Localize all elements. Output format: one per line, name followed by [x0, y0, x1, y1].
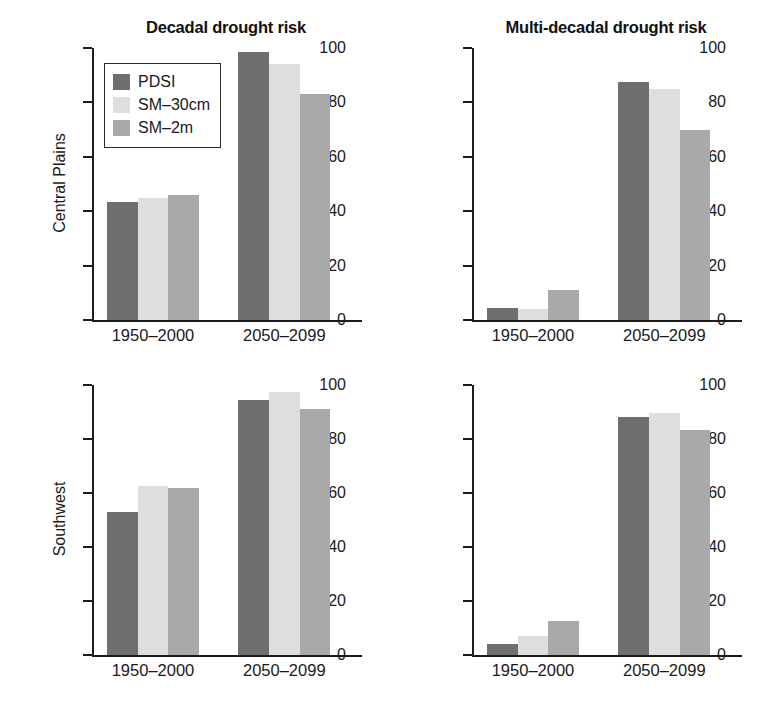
bar-southwest-decadal-0-0 — [107, 385, 138, 655]
panel-central-plains-decadal: Decadal drought riskCentral Plains020406… — [0, 18, 360, 360]
bar-fill-PDSI — [618, 82, 649, 320]
bar-central-plains-multidecadal-0-1 — [518, 48, 549, 320]
x-category-label-central-plains-decadal-1: 2050–2099 — [220, 326, 348, 345]
y-tick-0 — [83, 654, 92, 656]
x-axis-line — [472, 320, 742, 322]
bar-group-southwest-decadal-0 — [107, 385, 199, 655]
panel-title-central-plains-decadal: Decadal drought risk — [92, 18, 360, 37]
panel-central-plains-multidecadal: Multi-decadal drought risk02040608010019… — [380, 18, 740, 360]
y-axis-line — [92, 385, 94, 655]
legend-item-1[interactable]: SM–30cm — [113, 94, 210, 117]
legend-swatch-sm2m-icon — [113, 120, 130, 136]
x-category-label-central-plains-multidecadal-1: 2050–2099 — [600, 326, 728, 345]
bar-fill-PDSI — [238, 400, 269, 655]
y-tick-40 — [463, 210, 472, 212]
bar-group-central-plains-multidecadal-0 — [487, 48, 579, 320]
y-tick-label-60: 60 — [708, 148, 726, 166]
bar-fill-SM30cm — [269, 64, 300, 320]
y-axis-line — [472, 385, 474, 655]
panel-title-central-plains-multidecadal: Multi-decadal drought risk — [472, 18, 740, 37]
plot-area-southwest-multidecadal: 0204060801001950–20002050–2099 — [472, 385, 740, 655]
y-tick-100 — [83, 47, 92, 49]
bar-southwest-multidecadal-1-0 — [618, 385, 649, 655]
y-tick-40 — [83, 210, 92, 212]
y-tick-20 — [463, 600, 472, 602]
y-tick-100 — [463, 47, 472, 49]
bar-fill-SM30cm — [518, 636, 549, 655]
y-tick-60 — [83, 492, 92, 494]
bar-central-plains-multidecadal-1-1 — [649, 48, 680, 320]
bar-group-central-plains-multidecadal-1 — [618, 48, 710, 320]
bar-fill-SM2m — [300, 94, 331, 320]
bar-group-southwest-decadal-1 — [238, 385, 330, 655]
legend-item-label: SM–30cm — [138, 97, 210, 113]
bar-southwest-decadal-0-2 — [168, 385, 199, 655]
bar-fill-PDSI — [107, 512, 138, 655]
y-tick-60 — [83, 156, 92, 158]
bar-fill-PDSI — [487, 644, 518, 655]
y-tick-20 — [83, 600, 92, 602]
y-tick-label-40: 40 — [708, 202, 726, 220]
bar-fill-SM30cm — [649, 89, 680, 320]
x-axis-line — [92, 655, 362, 657]
bar-fill-PDSI — [618, 417, 649, 655]
y-tick-60 — [463, 156, 472, 158]
y-tick-80 — [463, 101, 472, 103]
bar-southwest-multidecadal-0-1 — [518, 385, 549, 655]
bar-southwest-decadal-1-2 — [300, 385, 331, 655]
y-tick-80 — [83, 101, 92, 103]
legend-item-2[interactable]: SM–2m — [113, 117, 210, 140]
bar-fill-PDSI — [487, 308, 518, 320]
panel-southwest-decadal: Southwest0204060801001950–20002050–2099 — [0, 355, 360, 695]
legend-item-label: SM–2m — [138, 120, 193, 136]
bar-fill-SM2m — [548, 621, 579, 655]
y-tick-label-20: 20 — [708, 257, 726, 275]
chart-legend: PDSISM–30cmSM–2m — [104, 63, 221, 148]
row-label-southwest-decadal: Southwest — [51, 439, 69, 599]
bar-fill-SM2m — [680, 430, 711, 655]
legend-swatch-pdsi-icon — [113, 74, 130, 90]
bar-central-plains-multidecadal-0-2 — [548, 48, 579, 320]
y-tick-40 — [83, 546, 92, 548]
y-axis-line — [92, 48, 94, 320]
bar-fill-SM2m — [680, 130, 711, 320]
bar-fill-PDSI — [107, 202, 138, 320]
y-tick-label-20: 20 — [708, 592, 726, 610]
bar-central-plains-multidecadal-1-2 — [680, 48, 711, 320]
bar-fill-SM30cm — [138, 198, 169, 320]
y-tick-60 — [463, 492, 472, 494]
x-category-label-southwest-decadal-1: 2050–2099 — [220, 661, 348, 680]
y-tick-40 — [463, 546, 472, 548]
bar-fill-SM30cm — [649, 413, 680, 655]
y-tick-0 — [463, 654, 472, 656]
y-tick-0 — [83, 319, 92, 321]
y-tick-label-80: 80 — [708, 430, 726, 448]
bar-southwest-multidecadal-1-1 — [649, 385, 680, 655]
y-tick-label-80: 80 — [328, 430, 346, 448]
legend-item-0[interactable]: PDSI — [113, 71, 210, 94]
bar-fill-SM2m — [548, 290, 579, 320]
bar-fill-SM30cm — [138, 486, 169, 655]
panel-southwest-multidecadal: 0204060801001950–20002050–2099 — [380, 355, 740, 695]
bar-southwest-decadal-0-1 — [138, 385, 169, 655]
bar-fill-SM2m — [300, 409, 331, 655]
bar-southwest-multidecadal-0-2 — [548, 385, 579, 655]
y-tick-label-80: 80 — [708, 93, 726, 111]
bar-central-plains-decadal-1-2 — [300, 48, 331, 320]
y-tick-80 — [83, 438, 92, 440]
y-tick-label-40: 40 — [328, 202, 346, 220]
legend-item-label: PDSI — [138, 74, 175, 90]
bar-group-central-plains-decadal-1 — [238, 48, 330, 320]
y-tick-20 — [463, 265, 472, 267]
y-tick-80 — [463, 438, 472, 440]
y-axis-line — [472, 48, 474, 320]
bar-group-southwest-multidecadal-1 — [618, 385, 710, 655]
bar-central-plains-multidecadal-1-0 — [618, 48, 649, 320]
bar-central-plains-decadal-1-0 — [238, 48, 269, 320]
x-axis-line — [92, 320, 362, 322]
bar-central-plains-multidecadal-0-0 — [487, 48, 518, 320]
y-tick-label-80: 80 — [328, 93, 346, 111]
y-tick-label-60: 60 — [708, 484, 726, 502]
y-tick-label-60: 60 — [328, 484, 346, 502]
y-tick-100 — [83, 384, 92, 386]
